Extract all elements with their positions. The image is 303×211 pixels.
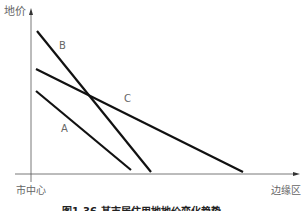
- x-axis-end-label: 边缘区: [271, 186, 301, 196]
- y-axis-arrow-icon: [29, 8, 33, 15]
- figure-caption: 图1-36 某市居住用地地价变化趋势: [62, 203, 221, 211]
- line-b-label: B: [59, 41, 66, 51]
- line-c-label: C: [124, 94, 131, 104]
- x-axis-start-label: 市中心: [16, 186, 46, 196]
- line-b: [37, 31, 151, 172]
- diagram-canvas: [0, 0, 303, 211]
- line-a-label: A: [61, 124, 68, 134]
- y-axis-label: 地价: [4, 6, 26, 17]
- x-axis-arrow-icon: [293, 172, 300, 176]
